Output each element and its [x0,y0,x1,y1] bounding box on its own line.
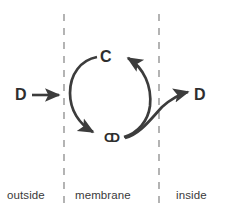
complex-letter-d: D [110,130,116,145]
species-label-d-outside: D [15,87,27,103]
binding-arc-arrow [70,57,97,132]
species-label-complex-cd: CD [104,131,117,145]
zone-label-inside: inside [176,190,207,202]
zone-label-membrane: membrane [75,190,131,202]
species-label-d-inside: D [194,87,206,103]
membrane-transport-diagram: D C CD D outside membrane inside [0,0,228,215]
species-label-carrier-c: C [100,49,112,65]
zone-label-outside: outside [7,190,45,202]
diagram-canvas [0,0,228,215]
